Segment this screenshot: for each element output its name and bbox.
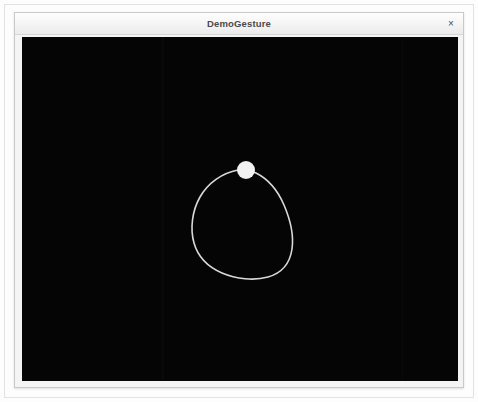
close-icon[interactable]: × (444, 17, 458, 31)
gesture-canvas[interactable] (22, 37, 458, 381)
gesture-canvas-area[interactable] (22, 37, 458, 381)
canvas-background (22, 37, 458, 381)
demogesture-window: DemoGesture × (14, 12, 464, 388)
window-title-bar[interactable]: DemoGesture × (15, 13, 463, 35)
window-title: DemoGesture (207, 19, 271, 29)
gesture-cursor-dot (237, 161, 255, 179)
desktop-backdrop: DemoGesture × (0, 0, 478, 402)
